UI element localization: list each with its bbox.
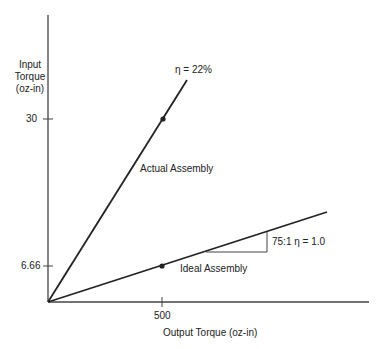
ratio-efficiency-label: 75:1 η = 1.0 — [272, 236, 325, 248]
y-axis-label-line3: (oz-in) — [0, 83, 60, 95]
actual-assembly-point — [160, 116, 165, 121]
ideal-assembly-line — [48, 212, 327, 302]
actual-efficiency-label: η = 22% — [175, 64, 212, 76]
y-tick-label-30: 30 — [26, 113, 37, 125]
x-tick-label-500: 500 — [154, 310, 171, 322]
y-tick-label-6-66: 6.66 — [21, 260, 40, 272]
actual-assembly-line — [48, 80, 187, 302]
x-axis-label: Output Torque (oz-in) — [163, 327, 257, 339]
y-axis-label-line1: Input — [0, 59, 60, 71]
y-axis-label-line2: Torque — [0, 71, 60, 83]
ideal-assembly-label: Ideal Assembly — [180, 263, 247, 275]
actual-assembly-label: Actual Assembly — [140, 163, 213, 175]
ideal-assembly-point — [159, 263, 164, 268]
